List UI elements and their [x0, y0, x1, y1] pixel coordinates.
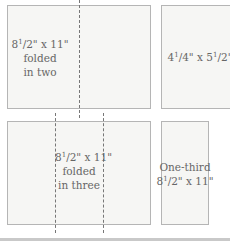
label-quarter: 41/4" x 51/2": [161, 50, 230, 64]
bottom-divider: [0, 238, 230, 241]
fold-line-half: [79, 0, 80, 118]
label-half-fold: 81/2" x 11" folded in two: [10, 37, 70, 79]
label-one-third: One-third 81/2" x 11": [156, 160, 214, 188]
fold-line-third-2: [103, 113, 104, 233]
label-tri-fold: 81/2" x 11" folded in three: [55, 150, 103, 192]
